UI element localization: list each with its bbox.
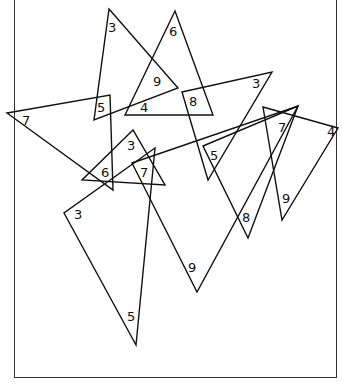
corner-number-label: 3 <box>127 138 135 153</box>
triangle-outline <box>132 106 298 292</box>
corner-number-label: 3 <box>252 76 260 91</box>
triangle-t6: 9 <box>132 106 298 292</box>
triangle-t7: 835 <box>182 72 272 180</box>
corner-number-label: 7 <box>140 165 148 180</box>
corner-number-label: 3 <box>74 207 82 222</box>
triangle-t1: 395 <box>94 9 178 120</box>
corner-number-label: 6 <box>169 24 177 39</box>
corner-number-label: 5 <box>210 148 218 163</box>
corner-number-label: 9 <box>282 191 290 206</box>
corner-number-label: 5 <box>97 100 105 115</box>
corner-number-label: 8 <box>242 210 250 225</box>
triangle-t5: 735 <box>64 148 155 345</box>
puzzle-canvas: 3956473673598357849 <box>0 0 342 387</box>
corner-number-label: 6 <box>101 165 109 180</box>
corner-number-label: 7 <box>22 113 30 128</box>
corner-number-label: 3 <box>108 20 116 35</box>
triangle-t2: 64 <box>125 11 213 115</box>
corner-number-label: 7 <box>278 120 286 135</box>
corner-number-label: 9 <box>188 260 196 275</box>
corner-number-label: 8 <box>189 94 197 109</box>
corner-number-label: 4 <box>140 100 148 115</box>
corner-number-label: 5 <box>127 309 135 324</box>
corner-number-label: 4 <box>327 124 335 139</box>
triangle-drawing: 3956473673598357849 <box>0 0 342 387</box>
triangle-outline <box>94 9 178 120</box>
triangle-t9: 49 <box>263 107 338 220</box>
corner-number-label: 9 <box>153 74 161 89</box>
